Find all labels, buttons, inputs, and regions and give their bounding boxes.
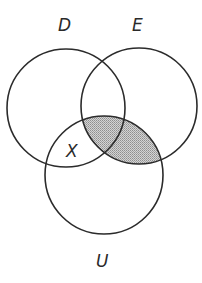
label-e: E [132,15,143,35]
venn-diagram: D E X U [0,0,202,283]
label-u: U [96,251,109,271]
label-d: D [58,15,71,35]
label-x: X [65,141,78,161]
